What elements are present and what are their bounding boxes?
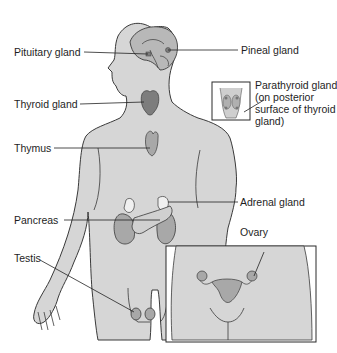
label-pituitary-gland: Pituitary gland bbox=[14, 46, 81, 58]
parathyroid-inset bbox=[212, 82, 250, 120]
label-parathyroid-line3: surface of thyroid bbox=[255, 103, 336, 115]
left-ovary bbox=[197, 271, 207, 281]
label-parathyroid-line2: (on posterior bbox=[255, 91, 314, 103]
label-parathyroid-line4: gland) bbox=[255, 115, 284, 127]
right-testis bbox=[145, 308, 155, 320]
left-kidney bbox=[114, 214, 135, 244]
label-pancreas: Pancreas bbox=[14, 214, 58, 226]
left-testis bbox=[131, 308, 141, 320]
label-thyroid-gland: Thyroid gland bbox=[14, 98, 78, 110]
label-parathyroid-line1: Parathyroid gland bbox=[255, 79, 337, 91]
label-ovary: Ovary bbox=[240, 226, 268, 238]
left-adrenal bbox=[124, 198, 134, 212]
label-thymus: Thymus bbox=[14, 142, 51, 154]
label-testis: Testis bbox=[14, 252, 41, 264]
label-pineal-gland: Pineal gland bbox=[241, 44, 299, 56]
female-pelvis-inset bbox=[166, 246, 316, 342]
label-adrenal-gland: Adrenal gland bbox=[240, 196, 305, 208]
